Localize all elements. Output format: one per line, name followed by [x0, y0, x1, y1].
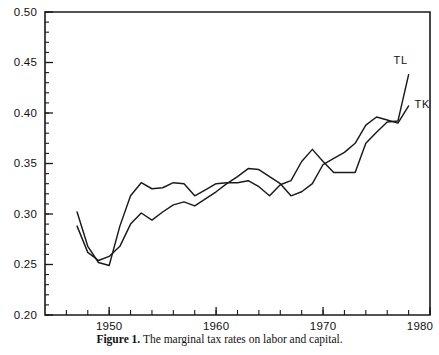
y-tick-label: 0.30 — [14, 208, 37, 220]
x-tick-label: 1950 — [96, 320, 122, 332]
x-tick-label: 1980 — [407, 320, 433, 332]
x-tick-label: 1970 — [310, 320, 336, 332]
y-tick-label: 0.35 — [14, 157, 37, 169]
x-axis-major-ticks — [109, 307, 430, 315]
y-tick-label: 0.40 — [14, 107, 37, 119]
caption-label: Figure 1. — [96, 333, 140, 345]
series-line-tk — [77, 106, 409, 261]
series-label-tk: TK — [415, 98, 430, 110]
line-chart: 0.200.250.300.350.400.450.50 19501960197… — [0, 0, 439, 333]
y-tick-label: 0.45 — [14, 56, 37, 68]
y-tick-label: 0.50 — [14, 6, 37, 18]
y-tick-label: 0.25 — [14, 258, 37, 270]
y-axis-tick-labels: 0.200.250.300.350.400.450.50 — [14, 6, 37, 321]
series-line-tl — [77, 75, 409, 266]
figure-container: 0.200.250.300.350.400.450.50 19501960197… — [0, 0, 439, 355]
figure-caption: Figure 1. The marginal tax rates on labo… — [0, 333, 439, 345]
y-tick-label: 0.20 — [14, 309, 37, 321]
series-label-tl: TL — [394, 54, 408, 66]
x-axis-tick-labels: 1950196019701980 — [96, 320, 433, 332]
y-axis-major-ticks — [45, 12, 53, 315]
plot-frame — [45, 12, 430, 315]
caption-text: The marginal tax rates on labor and capi… — [143, 333, 343, 345]
x-tick-label: 1960 — [203, 320, 229, 332]
